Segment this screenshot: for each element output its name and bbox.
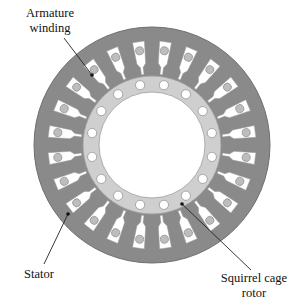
rotor-bar [97, 174, 106, 183]
rotor-bar [88, 128, 97, 137]
rotor-bar [181, 191, 190, 200]
rotor-bar [159, 81, 168, 90]
rotor-bar [207, 128, 216, 137]
rotor-bar [97, 107, 106, 116]
rotor-bar [198, 107, 207, 116]
rotor-bar [88, 152, 97, 161]
stator-pointer-dot [66, 212, 70, 216]
rotor-label-line1: Squirrel cage [212, 271, 296, 286]
squirrel-cage-rotor-label: Squirrel cage rotor [212, 271, 296, 301]
motor-cross-section [0, 0, 301, 306]
rotor-pointer-dot [180, 202, 184, 206]
rotor-label-line2: rotor [212, 286, 296, 301]
stator-label-text: Stator [14, 267, 64, 282]
armature-pointer-dot [90, 73, 94, 77]
rotor-bar [207, 152, 216, 161]
stator-label: Stator [14, 267, 64, 282]
rotor-bar [135, 200, 144, 209]
squirrel-cage-rotor [83, 76, 221, 214]
armature-winding-label: Armature winding [12, 6, 88, 36]
armature-label-line1: Armature [12, 6, 88, 21]
rotor-bar [198, 174, 207, 183]
stator-leader-line [44, 214, 68, 264]
armature-label-line2: winding [12, 21, 88, 36]
motor-diagram: Armature winding Stator Squirrel cage ro… [0, 0, 301, 306]
rotor-bar [181, 90, 190, 99]
rotor-bar [159, 200, 168, 209]
rotor-bar [135, 81, 144, 90]
rotor-bore [99, 92, 205, 198]
rotor-bar [114, 90, 123, 99]
rotor-bar [114, 191, 123, 200]
